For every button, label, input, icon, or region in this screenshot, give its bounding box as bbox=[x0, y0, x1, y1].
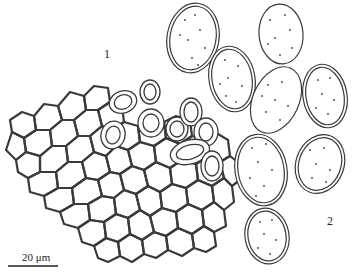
ornamented-spores bbox=[161, 0, 352, 267]
spore-8 bbox=[240, 205, 293, 268]
spore-6 bbox=[229, 130, 293, 210]
botanical-illustration bbox=[0, 0, 357, 279]
spore-5 bbox=[298, 61, 352, 132]
scale-bar-label: 20 μm bbox=[22, 251, 50, 263]
spore-2 bbox=[256, 2, 305, 66]
panel-label-1: 1 bbox=[104, 47, 110, 62]
panel-label-2: 2 bbox=[327, 214, 333, 229]
ring-spores bbox=[98, 80, 223, 181]
spore-7 bbox=[287, 128, 353, 201]
